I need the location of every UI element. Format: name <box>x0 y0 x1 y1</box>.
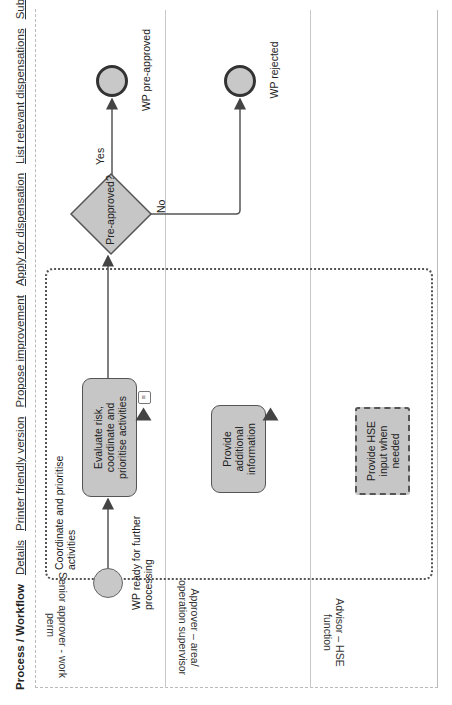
no-label: No <box>155 200 167 213</box>
group-label: Coordinate and prioritise activities <box>53 435 77 570</box>
end-rejected-label: WP rejected <box>268 20 280 120</box>
start-event[interactable] <box>93 568 123 598</box>
end-event-approved[interactable] <box>96 65 128 97</box>
end-event-rejected[interactable] <box>224 65 256 97</box>
gateway-label: Pre-approved? <box>104 175 116 245</box>
task-label: Provide additional information <box>221 406 257 492</box>
document-icon[interactable]: ≡ <box>138 391 151 404</box>
task-provide-hse-input[interactable]: Provide HSE input when needed <box>355 407 410 495</box>
start-event-label: WP ready for further processing <box>130 510 154 610</box>
task-label: Evaluate risk, coordinate and prioritise… <box>92 379 128 496</box>
task-label: Provide HSE input when needed <box>365 409 401 493</box>
warning-icon[interactable] <box>263 408 279 421</box>
warning-icon[interactable] <box>136 408 152 421</box>
task-evaluate-risk[interactable]: Evaluate risk, coordinate and prioritise… <box>82 378 137 497</box>
workflow-canvas: Process / Workflow Details Printer frien… <box>0 0 452 705</box>
yes-label: Yes <box>94 148 106 165</box>
end-approved-label: WP pre-approved <box>140 20 152 120</box>
task-provide-info[interactable]: Provide additional information <box>211 405 266 493</box>
